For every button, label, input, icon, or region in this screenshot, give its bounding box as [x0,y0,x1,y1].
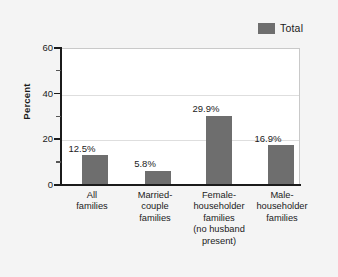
y-tick-label-0: 0 [13,179,53,190]
y-tick-label-60: 60 [13,42,53,53]
bar-all-families [82,155,108,184]
y-tick-minor-50 [56,70,61,72]
y-tick-0 [54,184,61,186]
legend-label-total: Total [280,22,303,34]
x-axis-line [60,184,301,186]
bar-value-all-families: 12.5% [57,143,107,154]
y-tick-label-20: 20 [13,133,53,144]
chart-legend: Total [258,22,303,34]
legend-swatch-total [258,23,275,34]
plot-inner [61,49,299,184]
bar-value-female-householder-families: 29.9% [181,103,231,114]
bar-chart-figure: Total Percent 0 20 40 60 12.5% 5.8% 29.9… [0,0,338,277]
gridline-40 [61,95,299,96]
plot-area [61,48,300,185]
x-category-line: present) [178,236,260,247]
y-tick-minor-10 [56,161,61,163]
x-category-line: (no husband [178,224,260,235]
bar-value-married-couple-families: 5.8% [120,158,170,169]
x-category-line: householder [241,201,323,212]
bar-female-householder-families [206,116,232,184]
x-category-line: Male- [241,190,323,201]
x-category-male-householder-families: Male- householder families [241,190,323,224]
bar-married-couple-families [145,171,171,184]
y-tick-label-40: 40 [13,88,53,99]
y-axis-title: Percent [21,72,32,132]
y-tick-20 [54,138,61,140]
bar-value-male-householder-families: 16.9% [243,133,293,144]
y-tick-40 [54,93,61,95]
y-tick-minor-30 [56,116,61,118]
bar-male-householder-families [268,145,294,184]
x-category-line: families [241,213,323,224]
y-tick-60 [54,47,61,49]
